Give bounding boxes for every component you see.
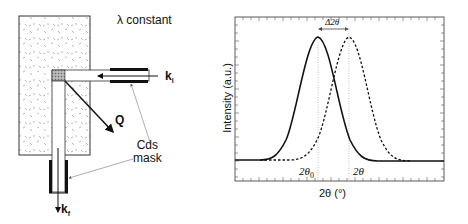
ki-text: k <box>165 69 172 83</box>
ki-subscript: i <box>172 77 174 84</box>
peak1-text: 2θ <box>353 165 364 177</box>
mask-label: Cds mask <box>133 139 162 165</box>
dashed-peak-curve <box>260 37 410 161</box>
peak0-label: 2θ0 <box>299 165 314 180</box>
kf-subscript: f <box>68 210 70 217</box>
delta-label: Δ2θ <box>325 17 339 27</box>
mask-label-line2: mask <box>133 152 162 165</box>
delta-text: Δ2θ <box>325 17 339 27</box>
ki-label: ki <box>165 69 174 84</box>
y-axis-text: Intensity (a.u.) <box>221 63 233 133</box>
x-axis-label: 2θ (°) <box>319 187 346 199</box>
outgoing-beam-tube <box>49 81 68 212</box>
kf-label: kf <box>61 202 70 217</box>
peak0-subscript: 0 <box>310 171 314 180</box>
lambda-constant-text: λ constant <box>117 13 172 27</box>
incident-beam-tube <box>52 68 158 83</box>
title-label: λ constant <box>117 13 172 27</box>
q-text: Q <box>115 113 124 127</box>
kf-text: k <box>61 202 68 216</box>
q-label: Q <box>115 113 124 127</box>
peak1-label: 2θ <box>353 165 364 177</box>
scattering-volume <box>52 70 65 81</box>
mask-pointer-top <box>131 84 150 142</box>
y-axis-label: Intensity (a.u.) <box>221 63 233 133</box>
mask-pointer-bottom <box>69 159 133 178</box>
x-axis-text: 2θ (°) <box>319 187 346 199</box>
peak0-text: 2θ <box>299 165 310 177</box>
figure-canvas <box>0 0 468 224</box>
